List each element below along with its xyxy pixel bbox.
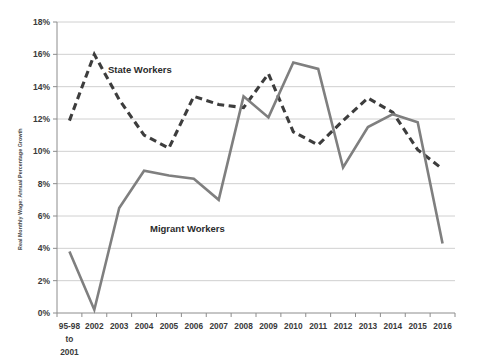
x-axis-ticks — [57, 313, 455, 317]
x-tick-label: 2016 — [433, 321, 452, 331]
chart-figure: 0%2%4%6%8%10%12%14%16%18% 95-98to2001200… — [0, 0, 479, 363]
x-tick-label: 2014 — [384, 321, 403, 331]
x-tick-label: 2007 — [209, 321, 228, 331]
x-tick-label: 2012 — [334, 321, 353, 331]
y-axis-tick-labels: 0%2%4%6%8%10%12%14%16%18% — [33, 17, 50, 318]
x-tick-label: 2010 — [284, 321, 303, 331]
x-tick-label-extra: to — [66, 334, 74, 344]
y-tick-label: 6% — [38, 211, 51, 221]
y-tick-label: 2% — [38, 276, 51, 286]
x-tick-label: 2013 — [359, 321, 378, 331]
x-tick-label-extra: 2001 — [60, 347, 79, 357]
y-tick-label: 10% — [33, 146, 50, 156]
y-tick-label: 16% — [33, 49, 50, 59]
x-tick-label: 2003 — [110, 321, 129, 331]
y-tick-label: 8% — [38, 179, 51, 189]
x-tick-label: 2015 — [408, 321, 427, 331]
y-tick-label: 4% — [38, 243, 51, 253]
x-axis-tick-labels: 95-98to200120022003200420052006200720082… — [59, 321, 452, 357]
x-tick-label: 2011 — [309, 321, 327, 331]
x-tick-label: 2004 — [135, 321, 154, 331]
y-axis-title: Real Monthly Wage: Annual Percentage Gro… — [17, 128, 23, 250]
x-tick-label: 2005 — [160, 321, 179, 331]
x-tick-label: 2009 — [259, 321, 278, 331]
x-tick-label: 2006 — [185, 321, 204, 331]
y-tick-label: 14% — [33, 82, 50, 92]
y-tick-label: 18% — [33, 17, 50, 27]
x-tick-label: 95-98 — [59, 321, 81, 331]
series-annotation: State Workers — [108, 64, 172, 75]
line-chart: 0%2%4%6%8%10%12%14%16%18% 95-98to2001200… — [0, 0, 479, 363]
y-tick-label: 12% — [33, 114, 50, 124]
y-tick-label: 0% — [38, 308, 51, 318]
series-annotation: Migrant Workers — [150, 223, 225, 234]
x-tick-label: 2008 — [234, 321, 253, 331]
x-tick-label: 2002 — [85, 321, 104, 331]
y-axis-ticks — [53, 22, 57, 313]
